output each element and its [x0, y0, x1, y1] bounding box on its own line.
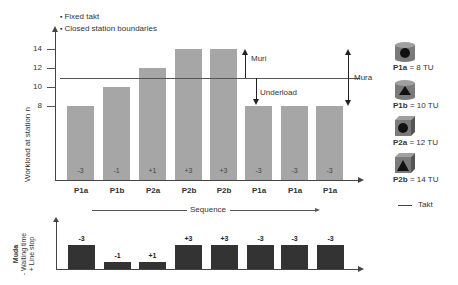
category-label: P1b	[100, 186, 134, 195]
muda-bar-label: +3	[211, 235, 238, 242]
bar-4	[175, 49, 202, 180]
muda-bar-label: -1	[104, 252, 131, 259]
bar-label: +3	[175, 167, 202, 174]
underload-arrowhead-icon	[253, 99, 259, 105]
muda-bar-7	[281, 245, 308, 269]
legend-p2b-text: P2b = 14 TU	[393, 175, 438, 184]
muda-y-axis	[56, 220, 57, 270]
bar-label: -3	[245, 167, 272, 174]
muda-bar-3	[139, 262, 166, 269]
underload-label: Underload	[260, 88, 297, 97]
mura-arrow-icon	[348, 53, 349, 102]
mura-label: Mura	[354, 73, 372, 82]
ytick-12: 12	[22, 63, 42, 72]
category-label: P1a	[278, 186, 312, 195]
underload-arrow-icon	[256, 78, 257, 100]
category-label: P2b	[172, 186, 206, 195]
category-label: P1a	[242, 186, 276, 195]
tickmark	[47, 49, 55, 50]
bar-3	[139, 68, 166, 180]
muda-bar-1	[68, 245, 95, 269]
muda-bar-4	[175, 245, 202, 269]
y-axis-arrow-icon	[52, 26, 58, 32]
y-axis	[55, 30, 56, 181]
cube-triangle-icon	[393, 152, 417, 174]
muda-bar-label: -3	[281, 235, 308, 242]
tickmark	[47, 106, 55, 107]
bar-label: -3	[281, 167, 308, 174]
legend-takt-line-icon	[398, 205, 412, 206]
y-axis-label: Workload at station n	[23, 100, 32, 190]
muda-bar-label: -3	[68, 235, 95, 242]
tickmark	[47, 87, 55, 88]
muda-bar-label: -3	[317, 235, 344, 242]
ytick-10: 10	[22, 82, 42, 91]
category-label: P2b	[207, 186, 241, 195]
legend-p1a-text: P1a = 8 TU	[393, 63, 434, 72]
tickmark	[47, 68, 55, 69]
category-label: P2a	[136, 186, 170, 195]
muda-label: Muda	[12, 218, 20, 285]
bar-label: +1	[139, 167, 166, 174]
bar-label: -1	[103, 167, 130, 174]
bar-label: +3	[210, 167, 237, 174]
muri-arrowhead-icon	[242, 49, 248, 55]
waiting-time-label: - Waiting time	[20, 218, 28, 285]
muda-x-axis	[56, 269, 360, 270]
muda-bar-5	[211, 245, 238, 269]
note-fixed-takt: Fixed takt	[60, 12, 99, 21]
line-stop-label: + Line stop	[28, 218, 36, 285]
x-axis	[55, 180, 360, 181]
x-axis-arrow-icon	[358, 177, 364, 183]
sequence-line-right	[230, 210, 315, 211]
muda-bar-label: +3	[175, 235, 202, 242]
legend-p2a-text: P2a = 12 TU	[393, 138, 438, 147]
muri-arrow-icon	[245, 53, 246, 78]
sequence-arrow-icon	[315, 208, 320, 212]
legend-takt-label: Takt	[418, 200, 433, 209]
muda-bar-6	[247, 245, 274, 269]
bar-5	[210, 49, 237, 180]
cube-circle-icon	[393, 115, 417, 137]
sequence-line-left	[92, 210, 187, 211]
mura-arrowhead-down-icon	[345, 100, 351, 106]
muda-bar-label: +1	[139, 252, 166, 259]
mura-arrowhead-up-icon	[345, 49, 351, 55]
muda-y-axis-arrow-icon	[53, 217, 59, 222]
muda-x-axis-arrow-icon	[358, 266, 364, 272]
bar-label: -3	[316, 167, 343, 174]
bar-label: -3	[67, 167, 94, 174]
cylinder-circle-icon	[393, 40, 417, 62]
muda-y-label: Muda - Waiting time + Line stop	[12, 218, 36, 285]
legend-p1b-text: P1b = 10 TU	[393, 101, 438, 110]
ytick-14: 14	[22, 44, 42, 53]
note-closed-boundaries: Closed station boundaries	[60, 24, 157, 33]
cylinder-triangle-icon	[393, 78, 417, 100]
sequence-label: Sequence	[190, 205, 226, 214]
muda-bar-2	[104, 262, 131, 269]
muri-label: Muri	[251, 54, 267, 63]
muda-bar-8	[317, 245, 344, 269]
muda-bar-label: -3	[247, 235, 274, 242]
category-label: P1a	[64, 186, 98, 195]
takt-line	[60, 78, 360, 79]
category-label: P1a	[313, 186, 347, 195]
